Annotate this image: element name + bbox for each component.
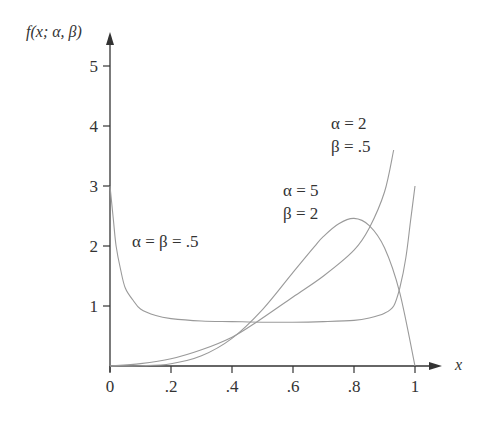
y-tick-label: 1: [90, 297, 99, 316]
beta-density-chart: 0.2.4.6.8112345 f(x; α, β) x α = β = .5 …: [0, 0, 488, 421]
y-axis-label: f(x; α, β): [26, 23, 82, 41]
x-tick-label: .6: [287, 377, 300, 396]
x-tick-label: .2: [165, 377, 178, 396]
y-tick-label: 3: [90, 177, 99, 196]
x-tick-label: .4: [226, 377, 239, 396]
y-axis-arrow-icon: [106, 32, 114, 45]
annotation-alpha2-line1: α = 2: [331, 114, 367, 133]
axes: [106, 32, 442, 372]
annotation-beta-half-line2: β = .5: [331, 137, 371, 156]
x-tick-label: 0: [106, 377, 115, 396]
x-axis-label: x: [454, 356, 462, 373]
annotation-alpha-beta-half: α = β = .5: [132, 232, 198, 251]
y-tick-label: 5: [90, 57, 99, 76]
curve-alpha2-beta-half: [110, 150, 394, 366]
annotation-alpha5-line1: α = 5: [283, 181, 319, 200]
x-axis-arrow-icon: [429, 362, 442, 370]
x-tick-label: 1: [411, 377, 420, 396]
y-tick-label: 4: [90, 117, 99, 136]
y-tick-label: 2: [90, 237, 99, 256]
annotation-beta2-line2: β = 2: [283, 204, 318, 223]
curve-alpha-beta-half: [110, 186, 415, 322]
x-tick-label: .8: [348, 377, 361, 396]
curves: [110, 150, 415, 366]
